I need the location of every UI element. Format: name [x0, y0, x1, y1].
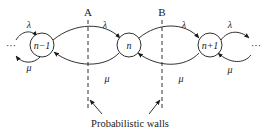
ellipsis-right: ··· — [251, 40, 261, 51]
mu-label-left: μ — [25, 62, 31, 73]
arrow-lambda-from-n-plus-1 — [221, 32, 249, 40]
pointer-to-wall-b — [149, 100, 160, 114]
wall-b-label: B — [158, 6, 165, 18]
pointer-to-wall-a — [90, 100, 102, 114]
ellipsis-left: ··· — [6, 40, 16, 51]
arrow-mu-n-plus-1-to-n — [138, 53, 199, 64]
node-n-minus-1-label: n−1 — [34, 40, 51, 51]
arrow-lambda-n-minus-1-to-n — [53, 26, 120, 40]
lambda-label-right: λ — [227, 19, 233, 30]
birth-death-diagram: A B ··· λ μ n−1 λ μ n λ μ n+1 λ μ ··· — [0, 0, 266, 134]
lambda-label-left: λ — [26, 19, 32, 30]
mu-label-1: μ — [103, 73, 109, 84]
arrow-lambda-n-to-n-plus-1 — [139, 26, 199, 38]
node-n-plus-1-label: n+1 — [202, 40, 219, 51]
arrow-mu-into-n-plus-1 — [218, 53, 251, 62]
node-n-label: n — [127, 40, 132, 51]
node-n-minus-1: n−1 — [30, 33, 54, 57]
wall-b: B — [158, 6, 165, 108]
wall-a: A — [84, 6, 92, 108]
node-n: n — [117, 33, 141, 57]
wall-a-label: A — [84, 6, 92, 18]
walls-caption: Probabilistic walls — [91, 118, 169, 129]
lambda-label-1: λ — [102, 19, 108, 30]
mu-label-right: μ — [226, 64, 232, 75]
arrow-mu-n-to-n-minus-1 — [54, 52, 119, 64]
mu-label-2: μ — [177, 73, 183, 84]
lambda-label-2: λ — [181, 19, 187, 30]
